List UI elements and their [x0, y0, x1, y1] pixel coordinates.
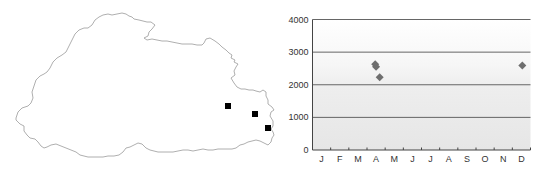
distribution-map: [0, 0, 290, 172]
x-tick-label: S: [464, 154, 470, 164]
x-tick-label: O: [482, 154, 489, 164]
y-tick-label: 4000: [288, 15, 308, 25]
data-point-diamond: [518, 62, 526, 70]
data-point-diamond: [371, 60, 379, 68]
x-tick-label: J: [319, 154, 324, 164]
locality-marker: [252, 111, 258, 117]
x-tick-label: A: [373, 154, 379, 164]
y-tick-label: 3000: [288, 47, 308, 57]
x-tick-label: J: [410, 154, 415, 164]
x-tick-label: J: [428, 154, 433, 164]
data-point-diamond: [376, 73, 384, 81]
data-points: [371, 60, 526, 81]
gridlines: [313, 20, 531, 118]
country-outline: [16, 13, 274, 157]
x-tick-label: M: [354, 154, 362, 164]
y-tick-label: 0: [303, 145, 308, 155]
y-tick-labels: 01000200030004000: [288, 15, 308, 156]
locality-marker: [265, 125, 271, 131]
x-tick-label: A: [446, 154, 452, 164]
plot-background: [313, 20, 531, 151]
x-tick-labels: JFMAMJJASOND: [319, 154, 525, 164]
x-tick-label: D: [518, 154, 525, 164]
y-tick-label: 1000: [288, 112, 308, 122]
x-ticks: [331, 148, 531, 151]
data-point-diamond: [372, 63, 380, 71]
x-tick-label: M: [391, 154, 399, 164]
y-tick-label: 2000: [288, 80, 308, 90]
x-tick-label: N: [500, 154, 507, 164]
x-tick-label: F: [337, 154, 343, 164]
locality-marker: [225, 103, 231, 109]
